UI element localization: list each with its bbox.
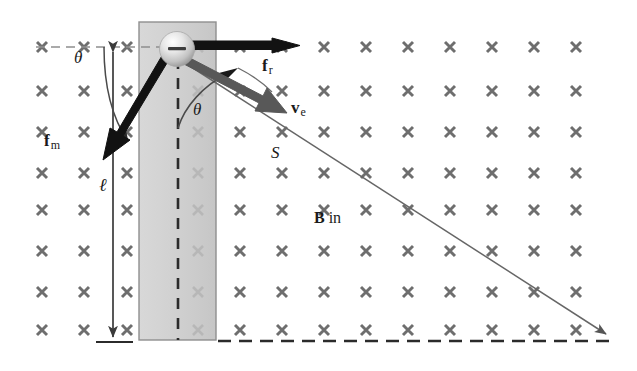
field-marker-row — [37, 168, 581, 178]
field-marker-row — [37, 205, 581, 215]
magnetic-force-label: fm — [44, 132, 60, 151]
angle-theta-lower-label: θ — [193, 101, 201, 118]
field-marker-row — [37, 287, 581, 297]
field-direction-text: in — [325, 209, 341, 226]
field-marker-row — [37, 325, 581, 335]
charged-sphere — [160, 32, 195, 67]
trajectory-line-s — [182, 61, 606, 334]
velocity-subscript: e — [301, 105, 306, 119]
velocity-symbol: v — [291, 98, 300, 117]
negative-charge-sign — [168, 47, 186, 50]
physics-diagram: θ θ ℓ fr ve fm S B in — [0, 0, 637, 371]
velocity-label: ve — [291, 99, 306, 118]
magnetic-force-symbol: f — [44, 131, 50, 150]
force-rod-symbol: f — [262, 56, 268, 75]
field-direction-label: B in — [314, 210, 341, 226]
force-rod-subscript: r — [269, 63, 273, 77]
trajectory-label: S — [271, 144, 280, 161]
field-marker-row — [37, 246, 581, 256]
field-marker-row — [37, 86, 581, 96]
angle-theta-upper-label: θ — [74, 49, 82, 66]
rod-length-label: ℓ — [99, 176, 107, 194]
magnetic-force-subscript: m — [51, 138, 60, 152]
magnetic-field-marker-group — [37, 42, 581, 335]
rod-length-measure — [96, 52, 133, 342]
field-symbol: B — [314, 209, 325, 226]
force-rod-label: fr — [262, 57, 273, 76]
diagram-canvas — [0, 0, 637, 371]
